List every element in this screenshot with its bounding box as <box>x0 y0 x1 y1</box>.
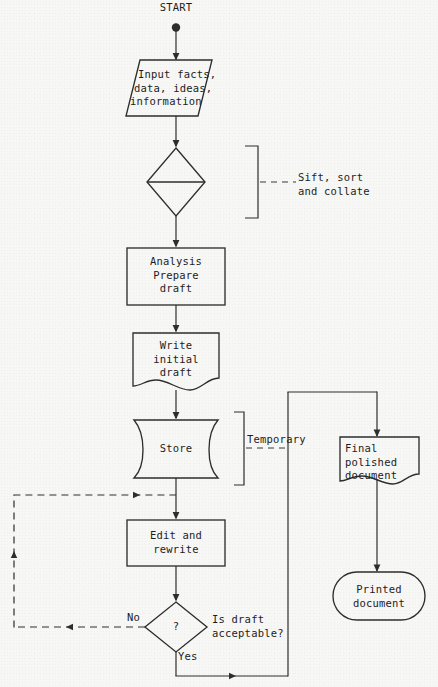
node-analysis-line2: Prepare <box>153 269 199 283</box>
node-final-line3: document <box>345 469 397 483</box>
bracket-temporary <box>234 412 244 485</box>
annotation-sift-line1: Sift, sort <box>298 171 363 185</box>
arrow-input-to-sift <box>173 140 180 148</box>
annotation-sift-line2: and collate <box>298 185 370 199</box>
node-printed-line1: Printed <box>356 583 402 597</box>
arrow-yes-bottom <box>229 673 236 679</box>
edge-label-no: No <box>127 611 140 625</box>
arrow-no-up <box>11 551 17 558</box>
node-edit-line1: Edit and <box>150 529 202 543</box>
node-write-line1: Write <box>160 339 193 353</box>
annotation-question-line2: acceptable? <box>212 627 284 641</box>
arrow-sift-to-analysis <box>173 240 180 248</box>
node-write-line2: initial <box>153 353 199 367</box>
start-dot <box>172 23 180 31</box>
flowchart-canvas: START Input facts, data, ideas, informat… <box>0 0 438 687</box>
node-edit-line2: rewrite <box>153 543 199 557</box>
node-printed-line2: document <box>353 597 405 611</box>
node-final-line1: Final <box>345 442 378 456</box>
bracket-sift <box>245 146 258 218</box>
node-final-line2: polished <box>345 456 397 470</box>
node-input-line1: Input facts, <box>138 68 216 82</box>
arrow-final-to-printed <box>374 565 381 573</box>
node-input-line2: data, ideas, <box>134 82 212 96</box>
start-label: START <box>160 1 193 15</box>
arrow-store-to-edit <box>173 512 180 520</box>
arrow-write-to-store <box>173 412 180 420</box>
arrow-edit-to-decision <box>173 594 180 602</box>
arrow-to-final-document <box>374 430 381 438</box>
node-analysis-line3: draft <box>160 282 193 296</box>
arrow-analysis-to-write <box>173 325 180 333</box>
annotation-question-line1: Is draft <box>212 613 264 627</box>
node-input-line3: information <box>130 95 202 109</box>
node-store-label: Store <box>160 442 193 456</box>
arrow-no-return <box>133 492 140 498</box>
edge-label-yes: Yes <box>178 650 198 664</box>
node-analysis-line1: Analysis <box>150 255 202 269</box>
node-write-line3: draft <box>160 366 193 380</box>
node-decision-mark: ? <box>173 620 180 634</box>
arrow-no-left <box>66 624 73 630</box>
annotation-temporary-label: Temporary <box>247 433 306 447</box>
